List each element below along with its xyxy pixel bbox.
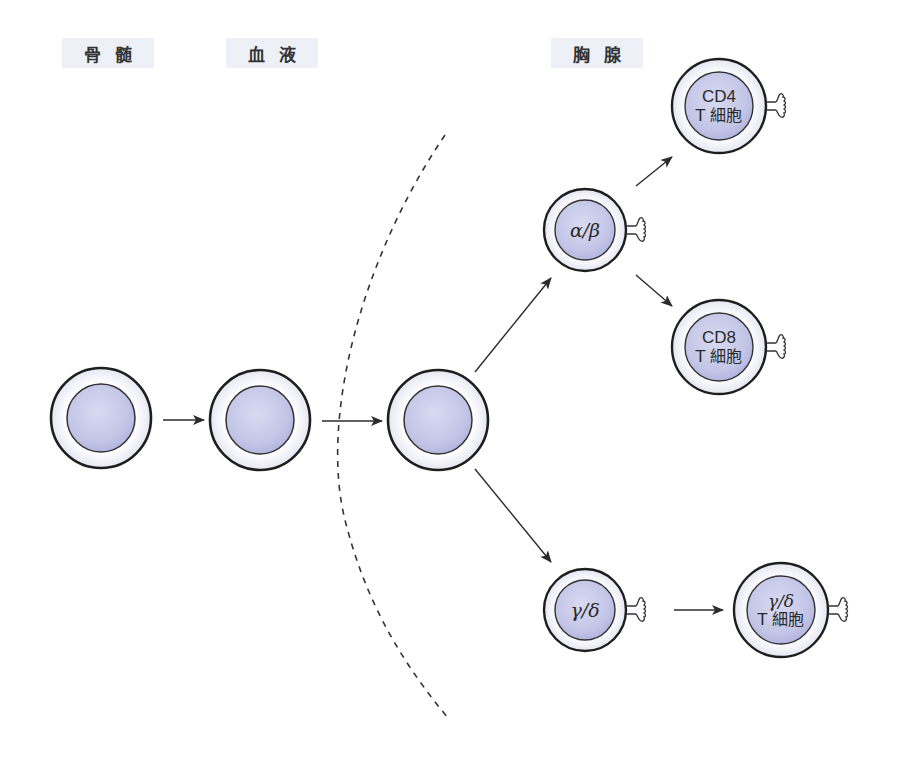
tcr-receptor-icon <box>828 598 848 621</box>
t-cell-text: T 細胞 <box>696 348 743 366</box>
diagram-canvas <box>0 0 897 761</box>
label-gamma-delta-t: γ/δ T 細胞 <box>747 584 815 636</box>
t-cell-text: T 細胞 <box>696 107 743 125</box>
label-cd4-t: CD4 T 細胞 <box>685 80 753 132</box>
tcr-receptor-icon <box>626 218 646 241</box>
gamma-delta-t-greek-text: γ/δ <box>768 592 794 611</box>
cd4-text: CD4 <box>702 88 736 107</box>
tcr-receptor-icon <box>766 94 786 117</box>
arrow-alpha-beta-to-cd8 <box>636 275 672 306</box>
arrow-thymocyte-to-gamma-delta <box>475 469 551 562</box>
alpha-beta-text: α/β <box>570 220 600 241</box>
gamma-delta-text: γ/δ <box>570 600 599 621</box>
cell-bone-marrow-precursor <box>51 368 151 468</box>
cell-blood-precursor <box>210 370 310 470</box>
arrow-alpha-beta-to-cd4 <box>636 157 672 186</box>
tcr-receptor-icon <box>626 598 646 621</box>
t-cell-text: T 細胞 <box>758 611 805 629</box>
label-cd8-t: CD8 T 細胞 <box>685 321 753 373</box>
tcr-receptor-icon <box>766 335 786 358</box>
cell-thymocyte <box>388 370 488 470</box>
arrow-thymocyte-to-alpha-beta <box>475 278 551 372</box>
label-alpha-beta: α/β <box>555 215 615 245</box>
label-gamma-delta: γ/δ <box>555 595 615 625</box>
cd8-text: CD8 <box>702 329 736 348</box>
